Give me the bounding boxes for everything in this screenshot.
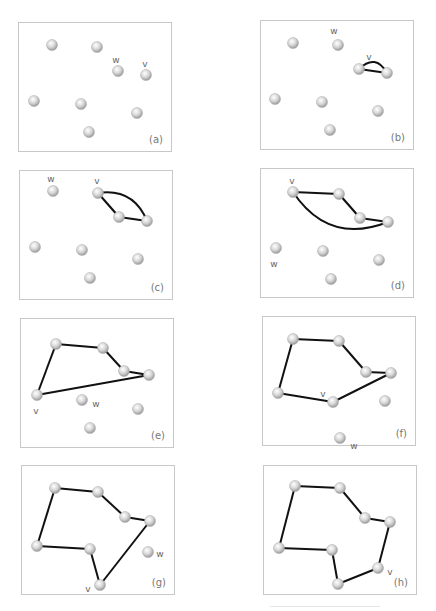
panel-label: (a) bbox=[149, 134, 163, 145]
node bbox=[385, 517, 396, 528]
panel-label: (b) bbox=[391, 132, 405, 143]
vertex-label-v: v bbox=[387, 567, 393, 577]
panel-b: wv(b) bbox=[260, 20, 414, 150]
panel-label: (c) bbox=[151, 282, 164, 293]
panel-label: (e) bbox=[151, 430, 165, 441]
node bbox=[333, 40, 344, 51]
edge bbox=[378, 522, 390, 568]
edge bbox=[293, 339, 339, 341]
edge bbox=[279, 548, 332, 550]
panel-f: vw(f) bbox=[262, 316, 416, 446]
edge bbox=[340, 488, 365, 518]
node bbox=[288, 38, 299, 49]
node bbox=[144, 370, 155, 381]
panel-d: vw(d) bbox=[260, 168, 414, 298]
graph-f: vw bbox=[263, 317, 417, 447]
panel-e: vw(e) bbox=[20, 318, 174, 448]
edge bbox=[339, 341, 366, 372]
node bbox=[120, 512, 131, 523]
vertex-label-w: w bbox=[350, 441, 357, 451]
vertex-label-v: v bbox=[94, 176, 100, 186]
node bbox=[143, 547, 154, 558]
vertex-label-v: v bbox=[85, 584, 91, 594]
node bbox=[333, 579, 344, 590]
node bbox=[119, 366, 130, 377]
node bbox=[354, 64, 365, 75]
edge bbox=[293, 192, 339, 194]
panel-g: vw(g) bbox=[21, 465, 175, 595]
node bbox=[271, 243, 282, 254]
node bbox=[77, 395, 88, 406]
node bbox=[113, 66, 124, 77]
node bbox=[288, 187, 299, 198]
node bbox=[274, 543, 285, 554]
node bbox=[373, 563, 384, 574]
edge bbox=[278, 339, 293, 393]
edge bbox=[55, 488, 98, 492]
node bbox=[29, 96, 40, 107]
panel-label: (h) bbox=[394, 577, 408, 588]
vertex-label-v: v bbox=[142, 59, 148, 69]
panel-label: (f) bbox=[396, 428, 407, 439]
vertex-label-v: v bbox=[289, 176, 295, 186]
vertex-label-v: v bbox=[33, 406, 39, 416]
edge bbox=[295, 486, 340, 488]
node bbox=[334, 189, 345, 200]
vertex-label-w: w bbox=[92, 399, 99, 409]
node bbox=[142, 216, 153, 227]
node bbox=[327, 545, 338, 556]
vertex-label-w: w bbox=[330, 26, 337, 36]
node bbox=[32, 541, 43, 552]
node bbox=[360, 513, 371, 524]
caption-divider bbox=[270, 606, 380, 607]
node bbox=[270, 94, 281, 105]
vertex-label-v: v bbox=[320, 389, 326, 399]
node bbox=[273, 388, 284, 399]
node bbox=[51, 339, 62, 350]
node bbox=[317, 97, 328, 108]
node bbox=[84, 127, 95, 138]
node bbox=[48, 186, 59, 197]
edge bbox=[338, 568, 378, 584]
vertex-label-w: w bbox=[47, 174, 54, 184]
panel-h: v(h) bbox=[263, 465, 417, 595]
node bbox=[30, 242, 41, 253]
edge bbox=[37, 375, 149, 395]
node bbox=[85, 423, 96, 434]
node bbox=[145, 516, 156, 527]
node bbox=[326, 274, 337, 285]
node bbox=[85, 273, 96, 284]
node bbox=[328, 397, 339, 408]
node bbox=[141, 70, 152, 81]
node bbox=[355, 213, 366, 224]
node bbox=[50, 483, 61, 494]
node bbox=[32, 390, 43, 401]
edge bbox=[37, 344, 56, 395]
vertex-label-w: w bbox=[112, 55, 119, 65]
edge bbox=[37, 546, 90, 549]
node bbox=[373, 106, 384, 117]
vertex-label-v: v bbox=[366, 52, 372, 62]
node bbox=[380, 396, 391, 407]
panel-c: wv(c) bbox=[19, 170, 173, 300]
node bbox=[383, 217, 394, 228]
node bbox=[95, 580, 106, 591]
node bbox=[133, 254, 144, 265]
node bbox=[98, 343, 109, 354]
node bbox=[93, 487, 104, 498]
node bbox=[334, 336, 345, 347]
node bbox=[386, 368, 397, 379]
node bbox=[382, 68, 393, 79]
node bbox=[361, 367, 372, 378]
node bbox=[47, 40, 58, 51]
node bbox=[77, 245, 88, 256]
node bbox=[133, 404, 144, 415]
panel-label: (d) bbox=[391, 280, 405, 291]
edge bbox=[37, 488, 55, 546]
node bbox=[374, 255, 385, 266]
vertex-label-w: w bbox=[156, 549, 163, 559]
node bbox=[335, 483, 346, 494]
node bbox=[132, 108, 143, 119]
panel-label: (g) bbox=[152, 577, 166, 588]
node bbox=[92, 42, 103, 53]
